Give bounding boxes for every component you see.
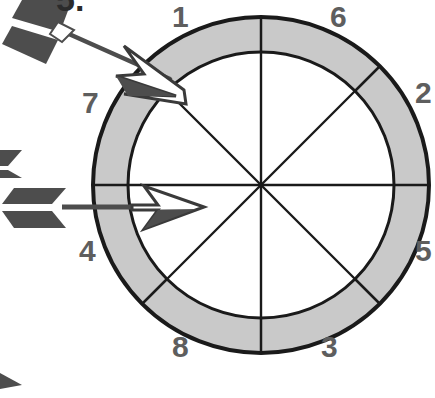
sector-label-7: 7 xyxy=(82,88,99,118)
edge-marks xyxy=(0,150,22,389)
arrow-horizontal-fletching-lower xyxy=(2,211,66,228)
arrow-horizontal-fletching-upper xyxy=(2,188,66,204)
spinner-wheel-figure xyxy=(0,0,435,398)
edge-fletching-left-lower xyxy=(0,170,22,178)
sector-label-2: 2 xyxy=(415,78,432,108)
edge-triangle-bottom-left xyxy=(0,373,22,389)
problem-number: 5. xyxy=(56,0,84,16)
sector-label-1: 1 xyxy=(172,2,189,32)
sector-label-4: 4 xyxy=(79,236,96,266)
sector-label-8: 8 xyxy=(172,332,189,362)
figure-canvas: 5. 1 6 2 5 3 8 4 7 xyxy=(0,0,435,398)
edge-fletching-left-upper xyxy=(0,150,22,166)
sector-label-3: 3 xyxy=(321,332,338,362)
sector-label-6: 6 xyxy=(330,2,347,32)
sector-label-5: 5 xyxy=(415,236,432,266)
arrow-diagonal-fletching-lower xyxy=(2,26,58,64)
